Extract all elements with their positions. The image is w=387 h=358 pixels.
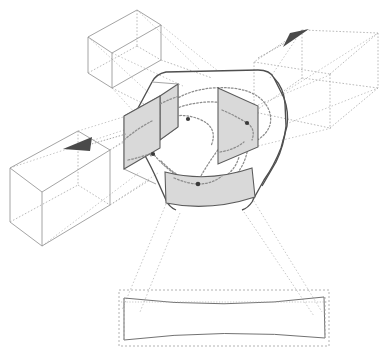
node-marker-left [151,152,155,156]
node-marker-center [186,117,190,121]
node-marker-right [245,121,249,125]
diagram-svg: .ln-light { stroke: #9a9a9a; stroke-widt… [0,0,387,358]
technical-diagram-canvas: .ln-light { stroke: #9a9a9a; stroke-widt… [0,0,387,358]
node-marker-bottom [196,182,201,187]
